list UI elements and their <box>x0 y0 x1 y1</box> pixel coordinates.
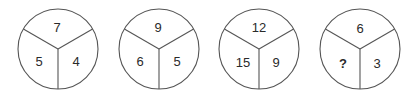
circle-1-right: 4 <box>72 54 79 69</box>
circle-1: 7 5 4 <box>18 9 98 89</box>
circle-3-right: 9 <box>272 55 279 70</box>
circle-3-left: 15 <box>236 55 250 70</box>
circle-4-right: 3 <box>373 56 380 71</box>
circle-2-right: 5 <box>173 54 180 69</box>
circle-3: 12 15 9 <box>219 9 299 89</box>
circle-4-top: 6 <box>356 21 363 36</box>
circle-1-top: 7 <box>53 20 60 35</box>
number-circles-puzzle: 7 5 4 9 6 5 12 15 9 6 ? 3 <box>0 0 414 99</box>
circle-3-top: 12 <box>252 20 266 35</box>
circle-1-left: 5 <box>35 54 42 69</box>
circle-2-top: 9 <box>154 20 161 35</box>
circle-2: 9 6 5 <box>119 9 199 89</box>
circle-4: 6 ? 3 <box>320 9 400 89</box>
circle-2-left: 6 <box>136 54 143 69</box>
circle-4-left-unknown: ? <box>339 56 347 71</box>
